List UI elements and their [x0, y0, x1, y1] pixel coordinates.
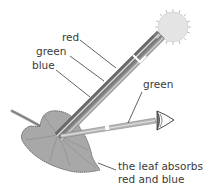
label-reflected-green: green: [143, 78, 173, 90]
leaf-icon: [21, 111, 100, 173]
leader-reflected-green: [128, 92, 142, 123]
leader-absorbs: [98, 163, 116, 170]
leader-green: [70, 56, 104, 81]
label-absorbs-line1: the leaf absorbs: [118, 160, 203, 172]
leaf-light-diagram: red green blue green the leaf absorbs re…: [0, 0, 208, 195]
label-blue: blue: [32, 59, 55, 71]
leader-red: [80, 40, 116, 68]
eye-icon: [157, 111, 174, 130]
leader-blue: [56, 70, 90, 97]
label-green: green: [36, 45, 66, 57]
label-red: red: [62, 31, 79, 43]
label-absorbs-line2: red and blue: [118, 173, 184, 185]
